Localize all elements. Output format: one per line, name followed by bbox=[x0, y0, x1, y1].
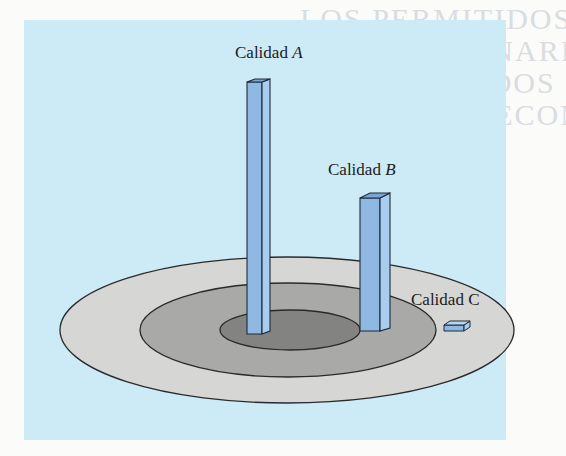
label-quality-c-text: Calidad bbox=[411, 290, 468, 309]
quality-diagram bbox=[0, 0, 566, 456]
label-quality-b-letter: B bbox=[385, 160, 395, 179]
label-quality-a-letter: A bbox=[292, 43, 302, 62]
bar-quality-c bbox=[444, 321, 470, 331]
label-quality-c-letter: C bbox=[468, 290, 479, 309]
bar-quality-a bbox=[247, 79, 270, 334]
label-quality-c: Calidad C bbox=[411, 290, 479, 310]
label-quality-a-text: Calidad bbox=[235, 43, 292, 62]
label-quality-b-text: Calidad bbox=[328, 160, 385, 179]
label-quality-b: Calidad B bbox=[328, 160, 396, 180]
bar-quality-b bbox=[360, 193, 390, 331]
inner-ring bbox=[220, 310, 360, 350]
label-quality-a: Calidad A bbox=[235, 43, 303, 63]
